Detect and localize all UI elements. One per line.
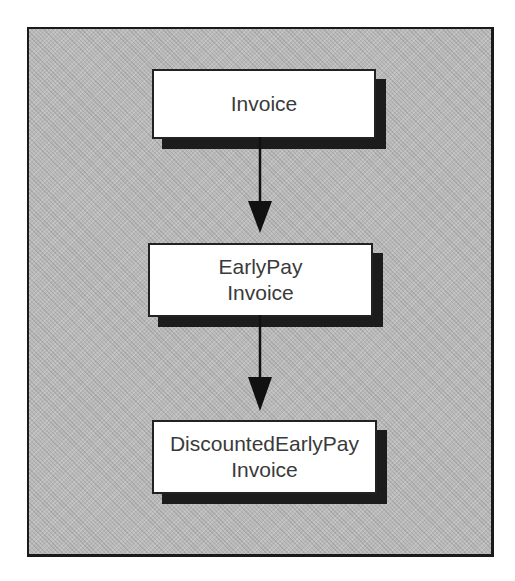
- node-label-line1: EarlyPay: [218, 254, 302, 280]
- arrow-down-icon: [245, 315, 277, 415]
- arrow-down-icon: [245, 137, 277, 237]
- node-label-line1: DiscountedEarlyPay: [170, 431, 359, 457]
- node-label-line2: Invoice: [231, 457, 298, 483]
- node-label: Invoice: [231, 91, 298, 117]
- node-discounted-earlypay-invoice: DiscountedEarlyPay Invoice: [152, 420, 377, 494]
- node-earlypay-invoice: EarlyPay Invoice: [148, 243, 373, 317]
- node-label-line2: Invoice: [227, 280, 294, 306]
- node-invoice: Invoice: [152, 69, 376, 139]
